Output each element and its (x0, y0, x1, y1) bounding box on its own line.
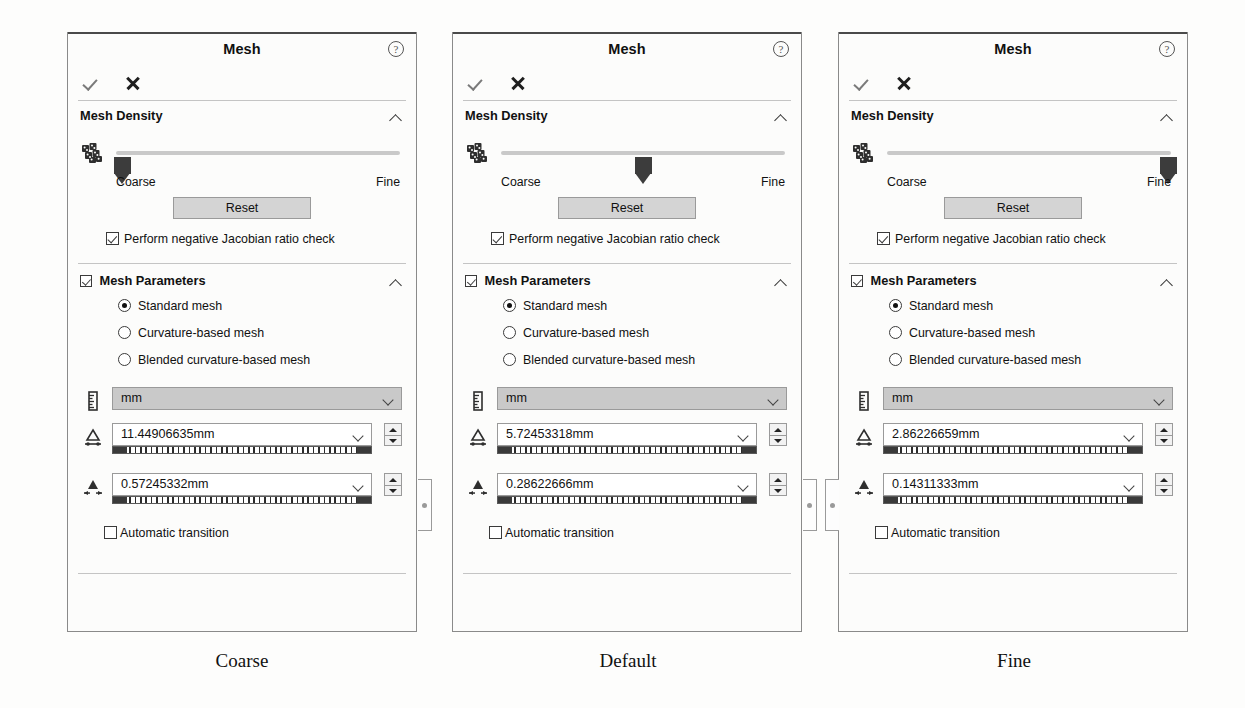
mesh-parameters-section-header[interactable]: Mesh Parameters (68, 264, 416, 292)
automatic-transition-row[interactable]: Automatic transition (68, 523, 416, 549)
checkmark-icon[interactable] (853, 72, 875, 94)
radio-blended-curvature-based-mesh-dot[interactable] (889, 353, 902, 366)
radio-curvature-based-mesh-dot[interactable] (118, 326, 131, 339)
help-circle-icon[interactable]: ? (388, 41, 404, 57)
jacobian-check-row[interactable]: Perform negative Jacobian ratio check (68, 229, 416, 255)
radio-blended-curvature-based-mesh[interactable]: Blended curvature-based mesh (453, 350, 801, 377)
jacobian-checkbox[interactable] (491, 232, 504, 245)
tolerance-spinner[interactable] (769, 473, 787, 496)
spinner-up-icon[interactable] (385, 424, 401, 436)
mesh-density-slider-track[interactable] (116, 151, 400, 155)
help-circle-icon[interactable]: ? (1159, 41, 1175, 57)
chevron-up-icon[interactable] (391, 278, 402, 289)
tolerance-gauge[interactable] (883, 496, 1143, 504)
help-circle-icon[interactable]: ? (773, 41, 789, 57)
chevron-down-icon[interactable] (1125, 432, 1134, 441)
tolerance-gauge[interactable] (112, 496, 372, 504)
reset-button[interactable]: Reset (173, 197, 311, 219)
spinner-up-icon[interactable] (770, 474, 786, 486)
spinner-up-icon[interactable] (770, 424, 786, 436)
chevron-up-icon[interactable] (1162, 278, 1173, 289)
spinner-down-icon[interactable] (1156, 436, 1172, 447)
radio-curvature-based-mesh-dot[interactable] (889, 326, 902, 339)
chevron-down-icon[interactable] (739, 432, 748, 441)
tolerance-input[interactable]: 0.57245332mm (112, 473, 372, 496)
chevron-up-icon[interactable] (776, 278, 787, 289)
mesh-parameters-checkbox[interactable] (80, 275, 92, 287)
element-size-input[interactable]: 5.72453318mm (497, 423, 757, 446)
element-size-spinner[interactable] (384, 423, 402, 446)
spinner-down-icon[interactable] (385, 436, 401, 447)
chevron-down-icon[interactable] (354, 432, 363, 441)
element-size-spinner[interactable] (769, 423, 787, 446)
units-select[interactable]: mm (497, 387, 787, 410)
automatic-transition-row[interactable]: Automatic transition (839, 523, 1187, 549)
spinner-down-icon[interactable] (770, 486, 786, 497)
radio-blended-curvature-based-mesh[interactable]: Blended curvature-based mesh (839, 350, 1187, 377)
radio-standard-mesh-dot[interactable] (889, 299, 902, 312)
radio-blended-curvature-based-mesh-dot[interactable] (118, 353, 131, 366)
spinner-up-icon[interactable] (1156, 474, 1172, 486)
automatic-transition-checkbox[interactable] (104, 526, 117, 539)
mesh-parameters-checkbox[interactable] (465, 275, 477, 287)
checkmark-icon[interactable] (467, 72, 489, 94)
chevron-down-icon[interactable] (1155, 396, 1164, 405)
units-select[interactable]: mm (112, 387, 402, 410)
chevron-down-icon[interactable] (384, 396, 393, 405)
element-size-input[interactable]: 2.86226659mm (883, 423, 1143, 446)
jacobian-checkbox[interactable] (877, 232, 890, 245)
chevron-down-icon[interactable] (354, 482, 363, 491)
mesh-density-slider-track[interactable] (501, 151, 785, 155)
radio-curvature-based-mesh-dot[interactable] (503, 326, 516, 339)
mesh-density-slider-track[interactable] (887, 151, 1171, 155)
mesh-density-section-header[interactable]: Mesh Density (839, 101, 1187, 129)
spinner-down-icon[interactable] (770, 436, 786, 447)
element-size-input[interactable]: 11.44906635mm (112, 423, 372, 446)
chevron-up-icon[interactable] (1162, 113, 1173, 124)
jacobian-check-row[interactable]: Perform negative Jacobian ratio check (453, 229, 801, 255)
close-x-icon[interactable] (122, 72, 144, 94)
checkmark-icon[interactable] (82, 72, 104, 94)
tolerance-spinner[interactable] (1155, 473, 1173, 496)
automatic-transition-checkbox[interactable] (875, 526, 888, 539)
automatic-transition-checkbox[interactable] (489, 526, 502, 539)
radio-curvature-based-mesh[interactable]: Curvature-based mesh (839, 323, 1187, 350)
panel-side-tab-handle[interactable] (825, 479, 839, 531)
spinner-down-icon[interactable] (1156, 486, 1172, 497)
mesh-parameters-section-header[interactable]: Mesh Parameters (839, 264, 1187, 292)
radio-standard-mesh[interactable]: Standard mesh (453, 296, 801, 323)
chevron-up-icon[interactable] (391, 113, 402, 124)
element-size-gauge[interactable] (112, 446, 372, 454)
jacobian-check-row[interactable]: Perform negative Jacobian ratio check (839, 229, 1187, 255)
close-x-icon[interactable] (507, 72, 529, 94)
chevron-down-icon[interactable] (769, 396, 778, 405)
tolerance-gauge[interactable] (497, 496, 757, 504)
chevron-down-icon[interactable] (1125, 482, 1134, 491)
panel-side-tab-handle[interactable] (803, 479, 817, 531)
radio-curvature-based-mesh[interactable]: Curvature-based mesh (453, 323, 801, 350)
tolerance-input[interactable]: 0.28622666mm (497, 473, 757, 496)
tolerance-spinner[interactable] (384, 473, 402, 496)
spinner-down-icon[interactable] (385, 486, 401, 497)
radio-standard-mesh[interactable]: Standard mesh (68, 296, 416, 323)
spinner-up-icon[interactable] (385, 474, 401, 486)
radio-standard-mesh[interactable]: Standard mesh (839, 296, 1187, 323)
element-size-gauge[interactable] (883, 446, 1143, 454)
jacobian-checkbox[interactable] (106, 232, 119, 245)
radio-blended-curvature-based-mesh-dot[interactable] (503, 353, 516, 366)
spinner-up-icon[interactable] (1156, 424, 1172, 436)
reset-button[interactable]: Reset (558, 197, 696, 219)
radio-standard-mesh-dot[interactable] (503, 299, 516, 312)
chevron-down-icon[interactable] (739, 482, 748, 491)
panel-side-tab-handle[interactable] (418, 479, 432, 531)
tolerance-input[interactable]: 0.14311333mm (883, 473, 1143, 496)
radio-curvature-based-mesh[interactable]: Curvature-based mesh (68, 323, 416, 350)
element-size-gauge[interactable] (497, 446, 757, 454)
radio-blended-curvature-based-mesh[interactable]: Blended curvature-based mesh (68, 350, 416, 377)
chevron-up-icon[interactable] (776, 113, 787, 124)
mesh-density-section-header[interactable]: Mesh Density (68, 101, 416, 129)
close-x-icon[interactable] (893, 72, 915, 94)
radio-standard-mesh-dot[interactable] (118, 299, 131, 312)
mesh-parameters-checkbox[interactable] (851, 275, 863, 287)
units-select[interactable]: mm (883, 387, 1173, 410)
